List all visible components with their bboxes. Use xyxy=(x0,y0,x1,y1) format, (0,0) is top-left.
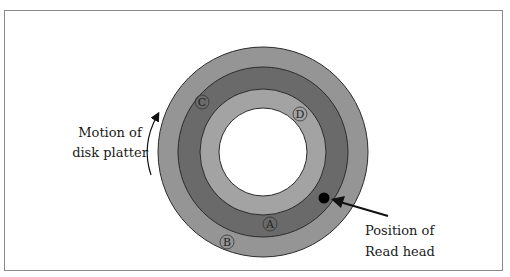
motion-caption-line2: disk platter xyxy=(72,145,149,160)
svg-text:A: A xyxy=(265,218,275,231)
read-head-caption-line1: Position of xyxy=(365,223,435,238)
disk-diagram: C D A B Motion of disk platter Position … xyxy=(0,0,510,277)
motion-caption-line1: Motion of xyxy=(78,125,143,140)
svg-text:B: B xyxy=(223,236,231,249)
rotation-arrow-icon xyxy=(147,116,157,175)
svg-text:D: D xyxy=(296,108,305,121)
center-hole xyxy=(219,108,307,196)
read-head-dot xyxy=(319,193,330,204)
read-head-caption-line2: Read head xyxy=(365,244,435,259)
svg-text:C: C xyxy=(198,96,206,109)
